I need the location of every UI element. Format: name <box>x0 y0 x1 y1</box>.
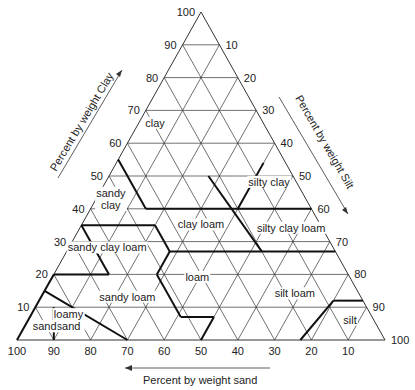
sand-tick: 20 <box>305 345 317 357</box>
clay-tick: 70 <box>128 104 140 116</box>
region-label-silt-loam: silt loam <box>275 287 315 299</box>
region-label-silty-clay: silty clay <box>248 176 290 188</box>
silt-tick: 60 <box>317 203 329 215</box>
clay-tick: 100 <box>177 6 195 18</box>
region-label-silty-clay-loam: silty clay loam <box>257 222 325 234</box>
silt-axis-title: Percent by weight Silt <box>279 93 357 214</box>
silt-tick: 50 <box>299 170 311 182</box>
clay-tick: 20 <box>36 268 48 280</box>
clay-tick: 50 <box>91 170 103 182</box>
sand-tick: 70 <box>121 345 133 357</box>
clay-tick: 40 <box>72 203 84 215</box>
region-label-loam: loam <box>185 271 209 283</box>
class-boundary <box>155 225 170 251</box>
clay-tick: 60 <box>109 137 121 149</box>
sand-axis-title: Percent by weight sand <box>125 365 270 386</box>
silt-tick: 90 <box>373 301 385 313</box>
sand-tick: 90 <box>48 345 60 357</box>
region-label-sand: sand <box>33 320 57 332</box>
class-boundary <box>157 251 170 274</box>
region-label-silt: silt <box>343 314 356 326</box>
clay-tick: 10 <box>17 301 29 313</box>
region-label-clay-loam: clay loam <box>178 218 224 230</box>
sand-tick: 10 <box>342 345 354 357</box>
sand-tick: 100 <box>8 345 26 357</box>
silt-gridline <box>201 176 293 340</box>
region-label-sandy-clay-loam: sandy clay loam <box>68 241 147 253</box>
silt-tick: 80 <box>354 268 366 280</box>
clay-tick: 80 <box>146 72 158 84</box>
silt-tick: 30 <box>262 104 274 116</box>
silt-tick: 70 <box>336 236 348 248</box>
clay-tick: 90 <box>164 39 176 51</box>
region-label-sandy-loam: sandy loam <box>99 291 155 303</box>
clay-axis-label: Percent by weight Clay <box>47 70 115 173</box>
texture-class-labels: claysandyclaysilty clayclay loamsilty cl… <box>32 117 358 332</box>
silt-tick: 40 <box>281 137 293 149</box>
clay-axis-title: Percent by weight Clay <box>47 70 122 178</box>
sand-tick: 50 <box>195 345 207 357</box>
class-boundary <box>157 274 181 317</box>
silt-tick: 100 <box>391 334 409 346</box>
sand-tick: 40 <box>232 345 244 357</box>
class-boundary <box>201 317 214 340</box>
sand-tick: 80 <box>84 345 96 357</box>
soil-texture-triangle: claysandyclaysilty clayclay loamsilty cl… <box>0 0 415 390</box>
silt-tick: 20 <box>244 72 256 84</box>
region-label-loamy-sand: loamysand <box>54 308 84 332</box>
sand-axis-label: Percent by weight sand <box>143 374 257 386</box>
clay-tick: 30 <box>54 236 66 248</box>
silt-tick: 10 <box>225 39 237 51</box>
sand-tick: 30 <box>268 345 280 357</box>
region-label-clay: clay <box>145 117 165 129</box>
sand-gridline <box>183 45 349 340</box>
class-boundary <box>17 291 45 340</box>
sand-tick: 60 <box>158 345 170 357</box>
triangle-grid <box>17 12 385 340</box>
class-boundary <box>300 301 333 340</box>
